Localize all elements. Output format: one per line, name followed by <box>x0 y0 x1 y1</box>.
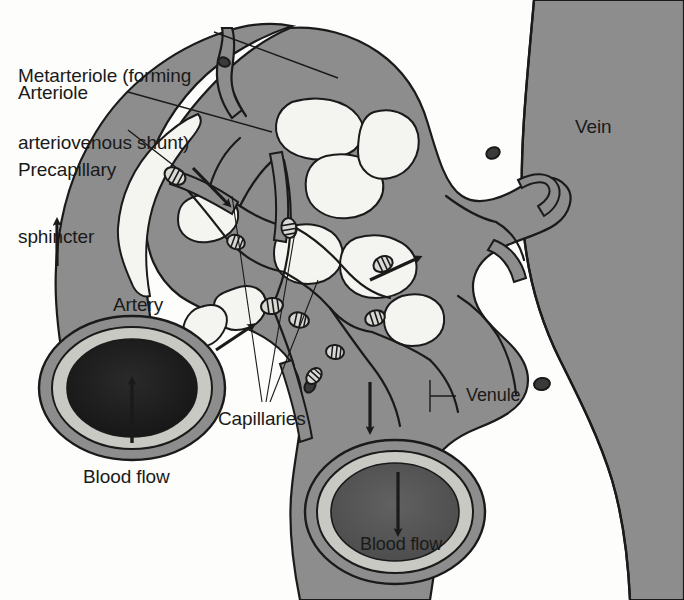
microcirculation-diagram: Metarteriole (forming arteriovenous shun… <box>0 0 684 600</box>
label-vein: Vein <box>575 116 612 138</box>
label-precapillary-sphincter: Precapillary sphincter <box>18 114 116 293</box>
label-precapillary-sphincter-line2: sphincter <box>18 226 116 248</box>
label-capillaries: Capillaries <box>218 408 306 430</box>
label-precapillary-sphincter-line1: Precapillary <box>18 159 116 181</box>
label-blood-flow-artery: Blood flow <box>83 466 170 488</box>
label-venule: Venule <box>466 385 520 406</box>
vein-cross-section <box>305 440 485 584</box>
label-artery: Artery <box>113 294 163 316</box>
label-blood-flow-vein: Blood flow <box>360 534 442 555</box>
artery-cross-section <box>39 316 225 460</box>
label-arteriole: Arteriole <box>18 82 88 104</box>
vein-trunk <box>522 0 684 600</box>
